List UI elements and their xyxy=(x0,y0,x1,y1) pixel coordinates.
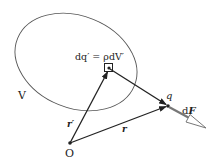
region-label: V xyxy=(17,89,27,102)
coulomb-force-diagram: V dq′ = ρdV′ O q dF r′ r xyxy=(0,0,216,165)
charge-element-label: dq′ = ρdV′ xyxy=(75,51,124,62)
point-charge-label: q xyxy=(166,90,172,101)
force-label-symbol: F xyxy=(187,105,196,116)
origin-label: O xyxy=(65,147,74,160)
force-label: dF xyxy=(182,105,196,116)
source-position-vector xyxy=(70,72,108,143)
field-vector-label: r xyxy=(122,124,128,134)
field-position-vector xyxy=(70,107,166,144)
volume-region-ellipse xyxy=(0,0,151,128)
separation-vector xyxy=(110,69,166,105)
origin-point xyxy=(68,141,72,145)
source-vector-label: r′ xyxy=(67,119,75,129)
